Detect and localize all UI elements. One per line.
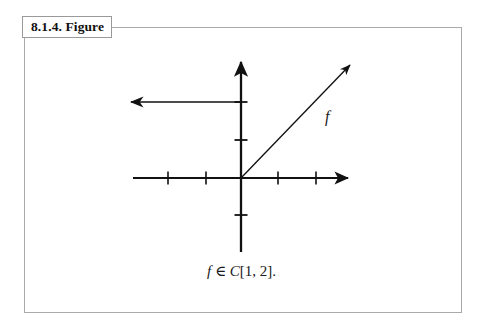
caption-membership: ∈ [211,263,230,279]
curve-label-f: f [325,108,329,126]
figure-caption: f ∈ C[1, 2]. [0,262,483,280]
figure-title: 8.1.4. Figure [31,20,104,34]
function-linear-ray [241,65,350,178]
figure-title-box: 8.1.4. Figure [22,16,112,38]
figure-plot [0,0,483,330]
caption-interval: [1, 2]. [240,263,276,279]
figure-root: 8.1.4. Figure f f ∈ C[1, 2]. [0,0,483,330]
caption-space-symbol: C [230,263,240,279]
